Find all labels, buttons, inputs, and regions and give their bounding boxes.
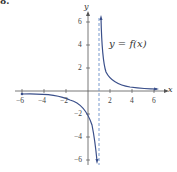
- function-label: y = f(x): [109, 38, 147, 49]
- y-axis-label: y: [84, 2, 89, 11]
- y-tick: −4: [74, 132, 82, 141]
- x-tick: 4: [130, 96, 134, 105]
- y-tick: 6: [78, 17, 82, 26]
- x-tick: 6: [152, 96, 156, 105]
- x-tick: −6: [16, 96, 24, 105]
- graph: [0, 0, 177, 172]
- y-tick: −6: [74, 155, 82, 164]
- x-tick: −4: [38, 96, 46, 105]
- y-axis-arrow-icon: [86, 11, 90, 16]
- x-tick: −2: [60, 96, 68, 105]
- x-axis-label: x: [168, 85, 173, 94]
- right-branch: [101, 18, 157, 89]
- y-tick: 4: [78, 40, 82, 49]
- x-tick: 2: [108, 96, 112, 105]
- y-tick: 2: [78, 63, 82, 72]
- y-tick: −2: [74, 109, 82, 118]
